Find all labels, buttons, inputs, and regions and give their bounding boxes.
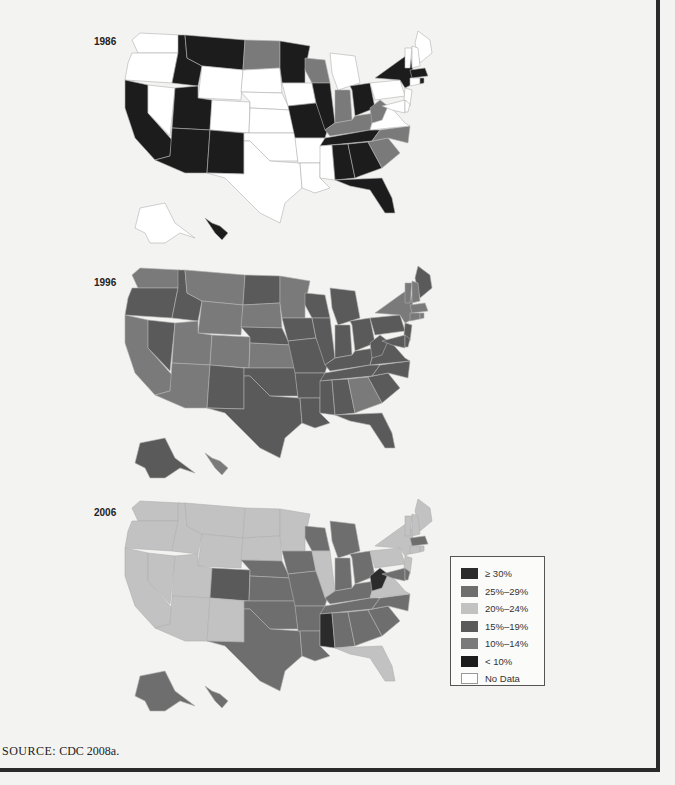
state-hi <box>205 686 228 708</box>
map-legend: ≥ 30% 25%–29% 20%–24% 15%–19% 10%–14% < … <box>450 556 545 686</box>
state-ak <box>135 438 195 478</box>
year-label-2006: 2006 <box>94 507 116 518</box>
state-in <box>335 558 352 591</box>
legend-label: 25%–29% <box>485 586 528 597</box>
state-pa <box>370 315 405 335</box>
state-ks <box>249 343 295 368</box>
state-nd <box>243 40 280 70</box>
state-wi <box>305 526 330 551</box>
map-1996 <box>120 263 440 488</box>
state-wa <box>132 33 180 53</box>
state-fl <box>335 178 395 213</box>
legend-item: 15%–19% <box>461 618 544 636</box>
legend-label: 15%–19% <box>485 621 528 632</box>
state-in <box>335 325 352 358</box>
source-note: SOURCE: CDC 2008a. <box>2 744 119 759</box>
state-ri <box>420 78 424 84</box>
legend-label: ≥ 30% <box>485 568 512 579</box>
state-ma <box>410 303 428 313</box>
state-mi <box>330 521 360 558</box>
source-text: CDC 2008a. <box>59 744 119 758</box>
state-ks <box>249 576 295 601</box>
state-ia <box>282 83 316 106</box>
state-ia <box>282 551 316 574</box>
state-wa <box>132 268 180 288</box>
state-ia <box>282 318 316 341</box>
legend-item: No Data <box>461 670 544 688</box>
legend-swatch <box>461 656 478 667</box>
state-co <box>210 100 250 133</box>
state-sd <box>241 303 282 328</box>
state-sd <box>241 536 282 561</box>
legend-swatch <box>461 603 478 614</box>
state-wy <box>198 301 243 335</box>
state-or <box>125 521 178 551</box>
legend-swatch <box>461 621 478 632</box>
state-ri <box>420 313 424 319</box>
state-ma <box>410 68 428 78</box>
state-ma <box>410 536 428 546</box>
state-ak <box>135 671 195 711</box>
state-ct <box>410 546 420 554</box>
state-ak <box>135 203 195 243</box>
state-fl <box>335 646 395 681</box>
state-co <box>210 568 250 601</box>
state-nd <box>243 275 280 305</box>
state-ct <box>410 313 420 321</box>
state-or <box>125 53 178 83</box>
source-prefix: SOURCE: <box>2 744 56 758</box>
legend-item: 20%–24% <box>461 600 544 618</box>
state-wy <box>198 534 243 568</box>
state-hi <box>205 453 228 475</box>
legend-item: 25%–29% <box>461 583 544 601</box>
state-hi <box>205 218 228 240</box>
state-ri <box>420 546 424 552</box>
state-wy <box>198 66 243 100</box>
state-mi <box>330 288 360 325</box>
state-wi <box>305 293 330 318</box>
state-nd <box>243 508 280 538</box>
state-or <box>125 288 178 318</box>
state-ct <box>410 78 420 86</box>
map-2006 <box>120 496 440 721</box>
state-ks <box>249 108 295 133</box>
state-co <box>210 335 250 368</box>
legend-label: 20%–24% <box>485 603 528 614</box>
year-label-1986: 1986 <box>94 36 116 47</box>
map-1986 <box>120 28 440 253</box>
legend-swatch <box>461 673 478 684</box>
legend-label: 10%–14% <box>485 638 528 649</box>
state-wi <box>305 58 330 83</box>
state-wa <box>132 501 180 521</box>
legend-item: < 10% <box>461 653 544 671</box>
state-fl <box>335 413 395 448</box>
year-label-1996: 1996 <box>94 277 116 288</box>
legend-swatch <box>461 638 478 649</box>
legend-label: < 10% <box>485 656 512 667</box>
state-in <box>335 90 352 123</box>
state-nm <box>207 365 244 409</box>
legend-item: ≥ 30% <box>461 565 544 583</box>
state-pa <box>370 548 405 568</box>
state-mi <box>330 53 360 90</box>
legend-swatch <box>461 586 478 597</box>
legend-swatch <box>461 568 478 579</box>
legend-item: 10%–14% <box>461 635 544 653</box>
frame-bottom-border <box>0 768 660 772</box>
state-nm <box>207 130 244 174</box>
state-nm <box>207 598 244 642</box>
legend-label: No Data <box>485 673 520 684</box>
state-sd <box>241 68 282 93</box>
state-pa <box>370 80 405 100</box>
frame-right-border <box>656 0 660 772</box>
